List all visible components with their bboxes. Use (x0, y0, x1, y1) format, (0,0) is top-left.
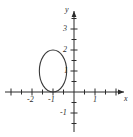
y-tick-label-3: 3 (63, 25, 67, 33)
x-tick-label--2: -2 (27, 96, 34, 104)
y-tick-label-2: 2 (63, 46, 67, 54)
y-axis-arrowhead (72, 11, 77, 17)
x-tick-label-1: 1 (93, 96, 97, 104)
x-axis-name-label: x (124, 95, 128, 103)
y-tick-label--1: -1 (60, 109, 67, 117)
graph-figure: -2 -1 1 3 2 1 -1 x y (0, 0, 133, 137)
x-axis-group (5, 90, 124, 95)
ellipse-curve (39, 50, 66, 92)
y-axis-name-label: y (65, 6, 69, 14)
y-tick-label-1: 1 (64, 67, 68, 75)
x-tick-label--1: -1 (48, 96, 55, 104)
